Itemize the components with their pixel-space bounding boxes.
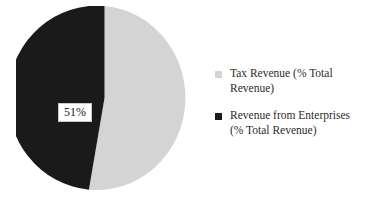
legend-label-revenue-from-enterprises: Revenue from Enterprises (% Total Revenu… — [230, 108, 362, 138]
legend-swatch-revenue-from-enterprises-icon — [215, 113, 222, 120]
legend-item-tax-revenue[interactable]: Tax Revenue (% Total Revenue) — [215, 66, 365, 96]
pie-svg — [16, 6, 193, 190]
pie-graphic — [16, 6, 193, 190]
pie-slice-revenue-from-enterprises[interactable] — [16, 6, 104, 190]
legend-item-revenue-from-enterprises[interactable]: Revenue from Enterprises (% Total Revenu… — [215, 108, 365, 138]
legend-swatch-tax-revenue-icon — [215, 71, 222, 78]
legend-label-tax-revenue: Tax Revenue (% Total Revenue) — [230, 66, 362, 96]
pie-chart: 51% Tax Revenue (% Total Revenue) Revenu… — [0, 0, 369, 197]
pie-data-label-revenue-from-enterprises: 51% — [58, 103, 92, 122]
chart-legend: Tax Revenue (% Total Revenue) Revenue fr… — [215, 66, 365, 150]
